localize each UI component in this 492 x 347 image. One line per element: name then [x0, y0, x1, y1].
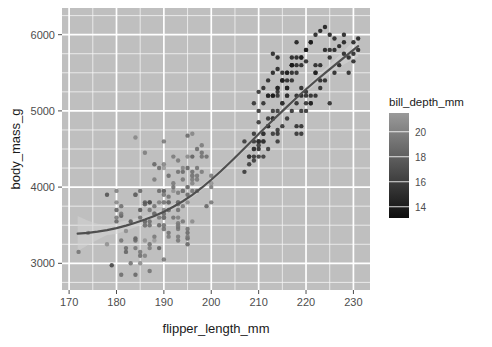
x-axis-title: flipper_length_mm	[163, 321, 270, 336]
x-tick-label: 200	[202, 296, 220, 308]
colorbar-tick-label: 20	[415, 127, 427, 138]
scatter-plot-svg: 170180190200210220230 3000400050006000 f…	[0, 0, 492, 347]
y-tick-label: 6000	[31, 29, 55, 41]
x-tick-label: 210	[249, 296, 267, 308]
x-tick-label: 230	[344, 296, 362, 308]
x-tick-label: 220	[297, 296, 315, 308]
y-axis-title: body_mass_g	[8, 109, 23, 190]
legend-title: bill_depth_mm	[389, 96, 464, 108]
y-tick-label: 4000	[31, 181, 55, 193]
colorbar-tick-label: 16	[415, 177, 427, 188]
chart-container: 170180190200210220230 3000400050006000 f…	[0, 0, 492, 347]
colorbar-tick-label: 18	[415, 152, 427, 163]
y-tick-label: 5000	[31, 105, 55, 117]
x-tick-label: 190	[155, 296, 173, 308]
y-tick-label: 3000	[31, 257, 55, 269]
x-tick-label: 170	[60, 296, 78, 308]
x-tick-label: 180	[107, 296, 125, 308]
colorbar-gradient	[389, 113, 409, 218]
colorbar-tick-label: 14	[415, 202, 427, 213]
